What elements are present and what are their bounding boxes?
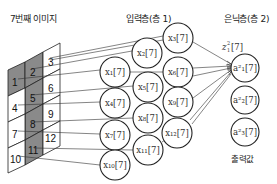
svg-text:8: 8 (30, 119, 36, 130)
svg-text:9: 9 (48, 109, 54, 120)
input-to-hidden-arrows (190, 42, 231, 124)
svg-text:x₁₀[7]: x₁₀[7] (103, 160, 127, 170)
svg-text:x₁[7]: x₁[7] (105, 67, 125, 77)
svg-text:4: 4 (12, 103, 18, 114)
svg-text:x₇[7]: x₇[7] (105, 130, 125, 140)
neural-network-diagram: 1 2 3 4 5 6 7 8 9 10 11 12 (0, 0, 277, 184)
svg-text:7: 7 (12, 129, 18, 140)
svg-text:x₁₂[7]: x₁₂[7] (165, 128, 189, 138)
svg-text:3: 3 (48, 57, 54, 68)
svg-text:2: 2 (227, 40, 230, 46)
svg-text:a²₁[7]: a²₁[7] (233, 63, 257, 73)
svg-text:x₁₁[7]: x₁₁[7] (136, 145, 160, 155)
svg-text:x₃[7]: x₃[7] (168, 33, 188, 43)
svg-text:x₂[7]: x₂[7] (137, 48, 157, 58)
svg-text:a²₂[7]: a²₂[7] (233, 95, 257, 105)
svg-text:x₉[7]: x₉[7] (168, 97, 188, 107)
svg-text:[7]: [7] (231, 42, 243, 52)
svg-text:x₄[7]: x₄[7] (105, 98, 125, 108)
svg-text:x₆[7]: x₆[7] (168, 67, 188, 77)
svg-text:1: 1 (12, 77, 18, 88)
svg-text:11: 11 (28, 145, 39, 156)
svg-text:x₈[7]: x₈[7] (138, 113, 158, 123)
svg-text:10: 10 (10, 154, 22, 165)
svg-text:x₅[7]: x₅[7] (138, 82, 158, 92)
svg-text:a²₃[7]: a²₃[7] (233, 127, 257, 137)
svg-text:12: 12 (45, 133, 57, 144)
svg-text:1: 1 (227, 47, 230, 53)
svg-text:6: 6 (48, 83, 54, 94)
